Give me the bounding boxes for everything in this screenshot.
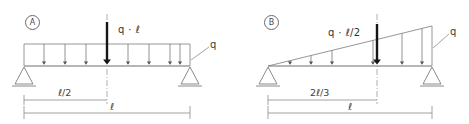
q-leader-a — [191, 47, 209, 60]
figure-tag-a: A — [25, 15, 40, 30]
resultant-load-label-b: q · ℓ/2 — [328, 28, 361, 38]
beam-diagram-figure — [0, 0, 469, 124]
q-leader-b — [433, 34, 449, 48]
dimension-label-full-span-a: ℓ — [110, 102, 114, 112]
dimension-line-full-span-a — [24, 106, 190, 119]
support-left-a — [12, 67, 36, 86]
dimension-label-half-span-a: ℓ/2 — [58, 88, 71, 98]
resultant-load-label-a: q · ℓ — [118, 25, 140, 35]
support-right-a — [178, 67, 202, 86]
support-left-b — [256, 67, 280, 86]
figure-tag-b: B — [264, 15, 279, 30]
diagram-canvas — [0, 0, 469, 124]
distributed-load-arrows-a — [44, 44, 180, 64]
support-right-b — [420, 67, 444, 86]
dimension-label-two-thirds-span-b: 2ℓ/3 — [310, 88, 329, 98]
dimension-label-full-span-b: ℓ — [348, 102, 352, 112]
load-intensity-label-a: q — [210, 40, 216, 50]
load-intensity-label-b: q — [450, 27, 456, 37]
